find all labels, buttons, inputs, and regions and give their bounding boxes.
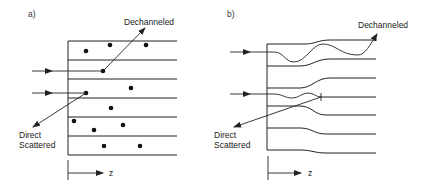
dechanneled-arrow-icon [103, 28, 145, 71]
panel-a-z-axis [68, 160, 103, 180]
direct-scattered-arrow-icon [234, 97, 321, 127]
panel-b-z-axis [268, 156, 301, 180]
atom-dot [109, 106, 114, 111]
panel-a-atoms [72, 43, 149, 149]
panel-a-scattered-label: Scattered [19, 140, 56, 150]
dechanneled-trajectory-icon [274, 34, 377, 62]
atom-dot [84, 49, 89, 54]
panel-b-dechanneled-label: Dechanneled [358, 20, 408, 30]
panel-a-planes [68, 41, 177, 155]
atom-dot [92, 128, 97, 133]
panel-b-direct-label: Direct [214, 130, 237, 140]
atom-dot [138, 144, 143, 149]
atom-dot [72, 119, 77, 124]
panel-a-dechanneled-label: Dechanneled [124, 17, 174, 27]
atom-dot [129, 86, 134, 91]
atom-dot [121, 123, 126, 128]
atom-dot [102, 144, 107, 149]
panel-b: b) Dechanneled [214, 9, 408, 180]
channeling-diagram: a) [0, 0, 430, 190]
panel-a-direct-label: Direct [19, 130, 42, 140]
panel-a-z-label: z [109, 168, 113, 178]
channeled-trajectory [274, 93, 321, 98]
panel-b-scattered-label: Scattered [214, 140, 251, 150]
panel-a: a) [19, 9, 177, 180]
direct-scattered-arrow-icon [33, 93, 86, 127]
panel-a-label: a) [28, 9, 36, 19]
atom-dot [144, 43, 149, 48]
panel-b-label: b) [227, 9, 235, 19]
panel-b-z-label: z [308, 168, 312, 178]
atom-dot [108, 43, 113, 48]
